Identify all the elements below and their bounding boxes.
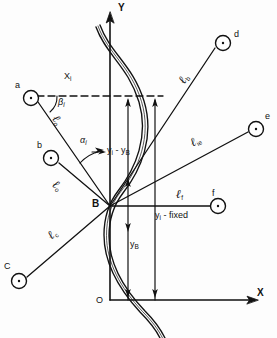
segment-b-to-c xyxy=(27,206,110,277)
beta-angle-arc xyxy=(50,96,57,112)
yb-label: yB xyxy=(130,240,139,251)
yi-fixed-rest: - fixed xyxy=(161,210,188,220)
xi-label: Xi xyxy=(64,72,71,83)
beta-subscript: i xyxy=(63,101,64,108)
node-circles xyxy=(12,36,264,289)
diagram-svg xyxy=(0,0,277,338)
ell-sub-f: f xyxy=(181,194,183,201)
alpha-subscript: i xyxy=(85,139,86,146)
segment-label-l-f: ℓf xyxy=(176,188,183,202)
yi-minus-yb-label: yi - yB xyxy=(107,146,130,157)
measurement-arrowheads xyxy=(125,98,158,298)
yb-sub: B xyxy=(125,149,129,156)
beta-i-label: βi xyxy=(58,98,65,109)
alpha-angle-arc xyxy=(80,151,100,163)
node-f-label: f xyxy=(212,189,215,198)
yb-subscript: B xyxy=(135,243,139,250)
node-d-label: d xyxy=(234,30,239,39)
node-c-label: C xyxy=(4,262,11,271)
node-e-label: e xyxy=(265,112,270,121)
y-axis-label: Y xyxy=(118,3,125,13)
xi-subscript: i xyxy=(70,75,71,82)
segment-b-to-d xyxy=(110,48,215,206)
origin-label: O xyxy=(96,296,103,305)
node-b-label: b xyxy=(37,141,42,150)
figure-canvas: Y X O B a b C d e f ℓo ℓo ℓc ℓb ℓie ℓf X… xyxy=(0,0,277,338)
yi-fixed-label: yi - fixed xyxy=(155,211,188,222)
x-axis-label: X xyxy=(257,288,264,298)
node-a-label: a xyxy=(15,81,20,90)
yi-mid: - y xyxy=(113,145,126,155)
alpha-i-label: αi xyxy=(80,136,87,147)
bend-point-b-label: B xyxy=(92,199,99,209)
